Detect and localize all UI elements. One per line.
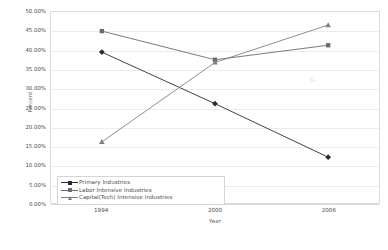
data-point-marker bbox=[212, 101, 218, 107]
legend-triangle-icon bbox=[60, 194, 79, 201]
line-chart: Percent 50.00%45.00%40.00%35.00%30.00%25… bbox=[0, 0, 388, 250]
data-point-marker bbox=[325, 22, 331, 27]
legend-item-label: Primary Industries bbox=[79, 179, 130, 186]
series-line bbox=[102, 25, 328, 142]
legend-item-label: Capital(Tech) Intensive Industries bbox=[79, 194, 172, 201]
legend-diamond-icon bbox=[60, 179, 79, 186]
y-axis-tick-label: 45.00% bbox=[8, 27, 46, 33]
data-point-marker bbox=[325, 154, 331, 160]
y-axis-tick-label: 35.00% bbox=[8, 66, 46, 72]
y-axis-tick-label: 5.00% bbox=[8, 182, 46, 188]
legend-item: Capital(Tech) Intensive Industries bbox=[60, 194, 221, 202]
legend-square-icon bbox=[60, 187, 79, 194]
x-axis-title: Year bbox=[50, 218, 380, 224]
legend-item: Primary Industries bbox=[60, 179, 221, 187]
y-axis-tick-labels: 50.00%45.00%40.00%35.00%30.00%25.00%20.0… bbox=[8, 8, 46, 204]
y-axis-tick-label: 10.00% bbox=[8, 162, 46, 168]
series-line bbox=[102, 31, 328, 60]
series-labor-intensive-industries bbox=[100, 29, 331, 62]
data-point-marker bbox=[326, 43, 330, 47]
y-axis-tick-label: 0.00% bbox=[8, 201, 46, 207]
y-axis-tick-label: 40.00% bbox=[8, 47, 46, 53]
data-point-marker bbox=[99, 139, 105, 144]
data-point-marker bbox=[100, 29, 104, 33]
y-axis-tick-label: 30.00% bbox=[8, 85, 46, 91]
y-axis-tick-label: 15.00% bbox=[8, 143, 46, 149]
legend-item: Labor Intensive Industries bbox=[60, 187, 221, 195]
series-capital-tech-intensive-industries bbox=[99, 22, 331, 144]
x-axis-tick-label: 1994 bbox=[71, 207, 131, 213]
x-axis-tick-label: 2006 bbox=[299, 207, 359, 213]
series-canvas bbox=[51, 12, 379, 203]
data-point-marker bbox=[99, 49, 105, 55]
legend: Primary IndustriesLabor Intensive Indust… bbox=[57, 176, 225, 205]
y-axis-tick-label: 50.00% bbox=[8, 8, 46, 14]
series-primary-industries bbox=[99, 49, 331, 160]
y-axis-tick-label: 20.00% bbox=[8, 124, 46, 130]
legend-item-label: Labor Intensive Industries bbox=[79, 187, 152, 194]
x-axis-tick-label: 2000 bbox=[185, 207, 245, 213]
y-axis-tick-label: 25.00% bbox=[8, 105, 46, 111]
